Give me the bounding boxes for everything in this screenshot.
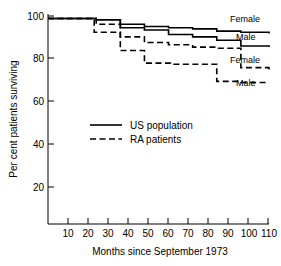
x-tick-label-40: 40 [122,228,134,239]
x-tick-label-70: 70 [182,228,194,239]
x-tick-label-10: 10 [62,228,74,239]
curve-label-us-female: Female [230,14,260,24]
legend-label-us-population: US population [130,120,193,131]
curve-label-ra-male: Male [236,78,256,88]
curve-label-us-male: Male [236,32,256,42]
x-tick-label-20: 20 [82,228,94,239]
x-tick-label-60: 60 [162,228,174,239]
chart-canvas: 100 80 60 40 20 10 20 30 40 50 60 [0,0,281,266]
y-tick-label-20: 20 [33,182,45,193]
y-tick-label-60: 60 [33,96,45,107]
y-axis-title: Per cent patients surviving [8,60,19,177]
survival-chart: 100 80 60 40 20 10 20 30 40 50 60 [0,0,281,266]
x-tick-label-80: 80 [202,228,214,239]
x-tick-label-100: 100 [241,228,258,239]
x-tick-label-30: 30 [102,228,114,239]
x-tick-label-110: 110 [261,228,277,239]
x-tick-label-50: 50 [142,228,154,239]
y-tick-label-100: 100 [27,11,44,22]
curve-label-ra-female: Female [230,55,260,65]
y-tick-label-40: 40 [33,139,45,150]
x-tick-label-90: 90 [222,228,234,239]
x-axis-title: Months since September 1973 [92,246,228,257]
legend-label-ra-patients: RA patients [130,134,181,145]
y-tick-label-80: 80 [33,53,45,64]
